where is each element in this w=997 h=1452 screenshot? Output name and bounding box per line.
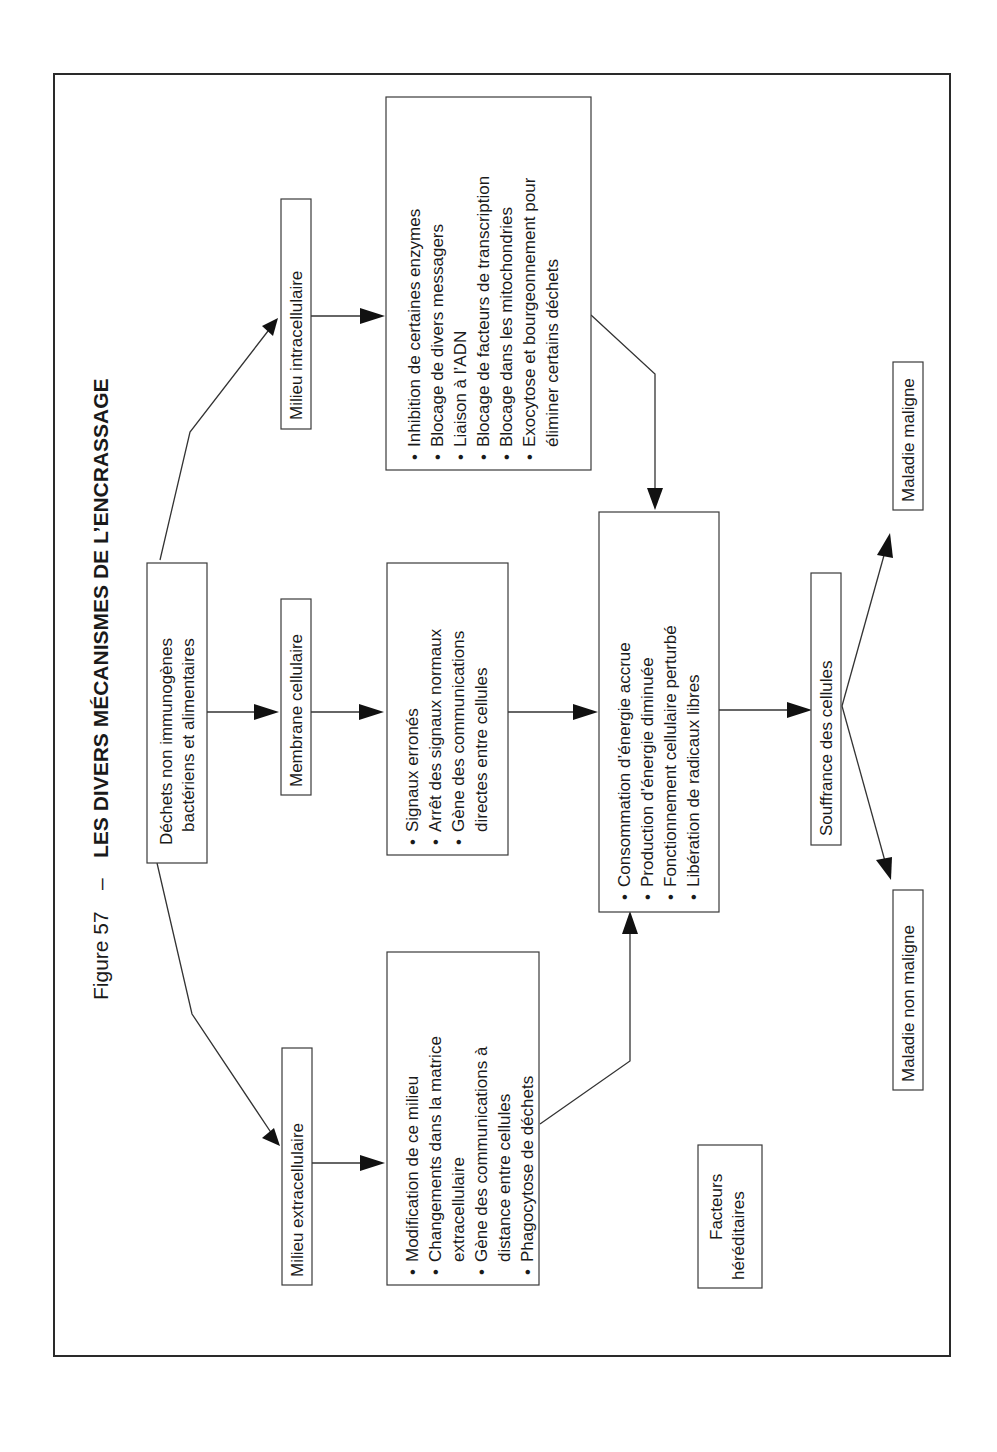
arrowhead-icon: [876, 857, 892, 880]
arrowhead-icon: [360, 308, 385, 324]
bullet-glyph: •: [426, 839, 445, 845]
node-souffrance-label: Souffrance des cellules: [817, 661, 836, 836]
arrow-source-to-intracellular: [160, 322, 275, 560]
node-facteurs-line-2: héréditaires: [729, 1191, 748, 1280]
extracellular-effect-item: extracellulaire: [449, 1157, 468, 1262]
bullet-glyph: •: [451, 454, 470, 460]
node-maladie-maligne-label: Maladie maligne: [899, 378, 918, 502]
energy-effect-item: Libération de radicaux libres: [684, 674, 703, 887]
bullet-glyph: •: [638, 894, 657, 900]
node-maladie-maligne: Maladie maligne: [893, 362, 923, 510]
arrowhead-icon: [254, 704, 279, 720]
intracellular-effect-item: Inhibition de certaines enzymes: [405, 209, 424, 447]
intracellular-effect-item: Blocage de facteurs de transcription: [474, 176, 493, 447]
bullet-glyph: •: [474, 454, 493, 460]
node-milieu-intracellulaire: Milieu intracellulaire: [281, 199, 311, 429]
arrowhead-icon: [262, 1128, 280, 1146]
extracellular-effect-item: distance entre cellules: [495, 1094, 514, 1262]
arrowhead-icon: [787, 702, 812, 718]
node-facteurs-line-1: Facteurs: [707, 1174, 726, 1240]
node-membrane-cellulaire: Membrane cellulaire: [281, 599, 311, 795]
bullet-glyph: •: [497, 454, 516, 460]
node-extracellular-effects: • Modification de ce milieu • Changement…: [387, 952, 539, 1285]
node-maladie-non-maligne-label: Maladie non maligne: [899, 925, 918, 1082]
figure-separator: –: [89, 878, 112, 890]
arrowhead-icon: [359, 704, 384, 720]
node-membrane-cellulaire-label: Membrane cellulaire: [287, 634, 306, 787]
arrow-extra-effects-to-energy: [540, 918, 630, 1124]
membrane-effect-item: Gène des communications: [449, 631, 468, 832]
intracellular-effect-item: Blocage dans les mitochondries: [497, 207, 516, 447]
extracellular-effect-item: Phagocytose de déchets: [518, 1076, 537, 1262]
membrane-effect-item: Signaux erronés: [403, 708, 422, 832]
bullet-glyph: •: [403, 839, 422, 845]
arrow-source-to-extracellular: [157, 863, 276, 1140]
arrowhead-icon: [622, 911, 638, 934]
node-maladie-non-maligne: Maladie non maligne: [893, 890, 923, 1090]
arrowhead-icon: [877, 533, 893, 558]
membrane-effect-item: Arrêt des signaux normaux: [426, 628, 445, 832]
figure-heading: LES DIVERS MÉCANISMES DE L’ENCRASSAGE: [89, 378, 112, 858]
membrane-effect-item: directes entre cellules: [472, 668, 491, 832]
energy-effect-item: Fonctionnement cellulaire perturbé: [661, 625, 680, 887]
node-intracellular-effects: • Inhibition de certaines enzymes • Bloc…: [386, 97, 591, 470]
bullet-glyph: •: [520, 454, 539, 460]
bullet-glyph: •: [615, 894, 634, 900]
bullet-glyph: •: [426, 1269, 445, 1275]
intracellular-effect-item: Exocytose et bourgeonnement pour: [520, 177, 539, 447]
intracellular-effect-item: Liaison à l’ADN: [451, 331, 470, 447]
diagram-canvas: Figure 57 – LES DIVERS MÉCANISMES DE L’E…: [0, 0, 997, 1452]
arrowhead-icon: [573, 704, 598, 720]
extracellular-effect-item: Modification de ce milieu: [403, 1076, 422, 1262]
extracellular-effect-item: Gène des communications à: [472, 1046, 491, 1262]
node-milieu-extracellulaire: Milieu extracellulaire: [282, 1048, 312, 1285]
bullet-glyph: •: [405, 454, 424, 460]
intracellular-effect-item: Blocage de divers messagers: [428, 224, 447, 447]
bullet-glyph: •: [661, 894, 680, 900]
bullet-glyph: •: [684, 894, 703, 900]
intracellular-effect-item: éliminer certains déchets: [543, 259, 562, 447]
figure-title: Figure 57 – LES DIVERS MÉCANISMES DE L’E…: [89, 378, 112, 1000]
node-source-line-2: bactériens et alimentaires: [179, 638, 198, 832]
bullet-glyph: •: [472, 1269, 491, 1275]
bullet-glyph: •: [403, 1269, 422, 1275]
energy-effect-item: Production d’énergie diminuée: [638, 657, 657, 887]
arrowhead-icon: [262, 318, 278, 336]
node-source-line-1: Déchets non immunogènes: [157, 638, 176, 845]
node-source: Déchets non immunogènes bactériens et al…: [147, 563, 207, 863]
arrow-souffrance-to-maligne: [842, 541, 888, 706]
arrow-souffrance-to-non-maligne: [842, 706, 888, 872]
node-milieu-extracellulaire-label: Milieu extracellulaire: [288, 1123, 307, 1277]
node-souffrance: Souffrance des cellules: [811, 573, 841, 845]
bullet-glyph: •: [428, 454, 447, 460]
bullet-glyph: •: [518, 1269, 537, 1275]
energy-effect-item: Consommation d’énergie accrue: [615, 642, 634, 887]
arrowhead-icon: [360, 1155, 385, 1171]
arrow-intra-effects-to-energy: [591, 315, 655, 502]
node-facteurs-hereditaires: Facteurs héréditaires: [698, 1145, 762, 1288]
node-energy-effects: • Consommation d’énergie accrue • Produc…: [599, 512, 719, 912]
node-membrane-effects: • Signaux erronés • Arrêt des signaux no…: [387, 563, 508, 855]
node-milieu-intracellulaire-label: Milieu intracellulaire: [287, 271, 306, 420]
bullet-glyph: •: [449, 839, 468, 845]
arrowhead-icon: [647, 488, 663, 510]
figure-number: Figure 57: [89, 911, 112, 1000]
extracellular-effect-item: Changements dans la matrice: [426, 1036, 445, 1262]
